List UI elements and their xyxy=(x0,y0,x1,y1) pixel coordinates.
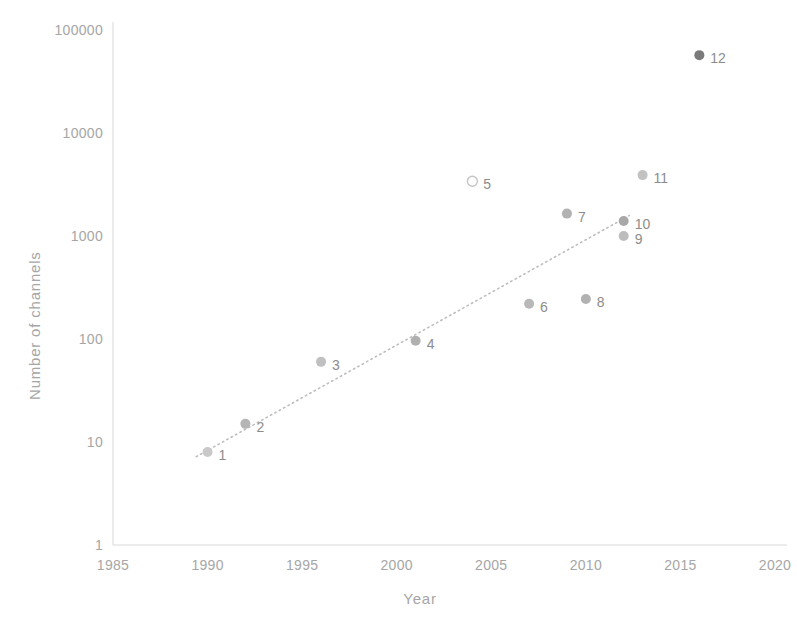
x-tick-1985: 1985 xyxy=(97,557,129,573)
axis-lines xyxy=(113,22,787,545)
data-point-label-7: 7 xyxy=(578,209,586,225)
y-tick-100: 100 xyxy=(0,331,103,347)
x-tick-1990: 1990 xyxy=(191,557,223,573)
y-tick-10000: 10000 xyxy=(0,125,103,141)
data-point-label-9: 9 xyxy=(635,231,643,247)
y-tick-1: 1 xyxy=(0,537,103,553)
data-point-label-5: 5 xyxy=(483,176,491,192)
data-point-label-10: 10 xyxy=(635,216,651,232)
data-point-marker-2 xyxy=(240,419,250,429)
data-point-label-11: 11 xyxy=(654,170,669,186)
data-point-marker-5 xyxy=(467,176,477,186)
x-tick-1995: 1995 xyxy=(286,557,318,573)
data-point-label-4: 4 xyxy=(427,336,435,352)
y-tick-1000: 1000 xyxy=(0,228,103,244)
data-point-label-1: 1 xyxy=(219,447,227,463)
data-point-marker-4 xyxy=(411,336,421,346)
data-point-marker-1 xyxy=(203,447,213,457)
data-point-marker-10 xyxy=(619,216,629,226)
data-point-marker-6 xyxy=(524,299,534,309)
data-point-markers xyxy=(203,50,705,457)
y-tick-10: 10 xyxy=(0,434,103,450)
x-tick-2005: 2005 xyxy=(475,557,507,573)
x-tick-2000: 2000 xyxy=(381,557,413,573)
chart-figure: 110100100010000100000 198519901995200020… xyxy=(0,0,797,628)
data-point-label-2: 2 xyxy=(256,419,264,435)
data-point-label-6: 6 xyxy=(540,299,548,315)
x-tick-2010: 2010 xyxy=(570,557,602,573)
x-tick-2015: 2015 xyxy=(664,557,696,573)
x-axis-title: Year xyxy=(403,590,437,607)
y-tick-100000: 100000 xyxy=(0,22,103,38)
data-point-label-3: 3 xyxy=(332,357,340,373)
scatter-plot-canvas xyxy=(0,0,797,628)
data-point-marker-7 xyxy=(562,209,572,219)
data-point-marker-12 xyxy=(694,50,704,60)
data-point-marker-8 xyxy=(581,294,591,304)
data-point-marker-9 xyxy=(619,231,629,241)
data-point-marker-11 xyxy=(638,170,648,180)
data-point-label-12: 12 xyxy=(710,50,726,66)
x-tick-2020: 2020 xyxy=(759,557,791,573)
data-point-marker-3 xyxy=(316,357,326,367)
y-axis-title: Number of channels xyxy=(26,251,43,400)
data-point-label-8: 8 xyxy=(597,294,605,310)
